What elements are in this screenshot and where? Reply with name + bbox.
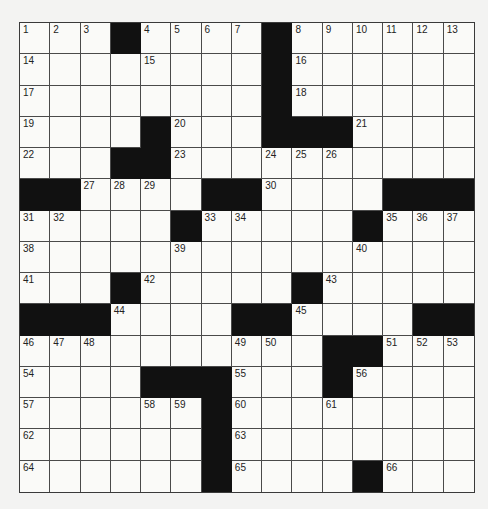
crossword-cell[interactable]: 24 — [262, 148, 292, 179]
crossword-cell[interactable]: 8 — [292, 23, 322, 54]
crossword-cell[interactable] — [383, 429, 413, 460]
crossword-cell[interactable]: 4 — [141, 23, 171, 54]
crossword-cell[interactable] — [323, 211, 353, 242]
crossword-cell[interactable] — [50, 86, 80, 117]
crossword-cell[interactable]: 2 — [50, 23, 80, 54]
crossword-cell[interactable]: 52 — [413, 336, 443, 367]
crossword-cell[interactable] — [353, 148, 383, 179]
crossword-cell[interactable] — [111, 117, 141, 148]
crossword-cell[interactable] — [413, 117, 443, 148]
crossword-cell[interactable]: 31 — [20, 211, 50, 242]
crossword-cell[interactable] — [262, 398, 292, 429]
crossword-cell[interactable]: 36 — [413, 211, 443, 242]
crossword-cell[interactable] — [81, 148, 111, 179]
crossword-cell[interactable] — [292, 398, 322, 429]
crossword-cell[interactable]: 40 — [353, 242, 383, 273]
crossword-cell[interactable]: 62 — [20, 429, 50, 460]
crossword-cell[interactable] — [171, 336, 201, 367]
crossword-cell[interactable]: 12 — [413, 23, 443, 54]
crossword-cell[interactable]: 42 — [141, 273, 171, 304]
crossword-cell[interactable] — [202, 86, 232, 117]
crossword-cell[interactable]: 37 — [444, 211, 474, 242]
crossword-cell[interactable] — [202, 304, 232, 335]
crossword-cell[interactable]: 41 — [20, 273, 50, 304]
crossword-cell[interactable]: 14 — [20, 54, 50, 85]
crossword-cell[interactable] — [292, 461, 322, 492]
crossword-cell[interactable] — [323, 54, 353, 85]
crossword-cell[interactable] — [111, 429, 141, 460]
crossword-cell[interactable]: 34 — [232, 211, 262, 242]
crossword-cell[interactable]: 38 — [20, 242, 50, 273]
crossword-cell[interactable] — [81, 367, 111, 398]
crossword-cell[interactable] — [292, 211, 322, 242]
crossword-cell[interactable] — [50, 54, 80, 85]
crossword-cell[interactable]: 11 — [383, 23, 413, 54]
crossword-cell[interactable] — [81, 117, 111, 148]
crossword-cell[interactable] — [111, 336, 141, 367]
crossword-cell[interactable] — [202, 54, 232, 85]
crossword-cell[interactable]: 43 — [323, 273, 353, 304]
crossword-cell[interactable] — [202, 148, 232, 179]
crossword-cell[interactable]: 18 — [292, 86, 322, 117]
crossword-cell[interactable] — [413, 398, 443, 429]
crossword-cell[interactable] — [141, 429, 171, 460]
crossword-cell[interactable] — [171, 429, 201, 460]
crossword-cell[interactable]: 65 — [232, 461, 262, 492]
crossword-cell[interactable]: 16 — [292, 54, 322, 85]
crossword-cell[interactable] — [413, 273, 443, 304]
crossword-cell[interactable]: 45 — [292, 304, 322, 335]
crossword-cell[interactable] — [81, 86, 111, 117]
crossword-cell[interactable]: 58 — [141, 398, 171, 429]
crossword-cell[interactable] — [353, 54, 383, 85]
crossword-cell[interactable]: 35 — [383, 211, 413, 242]
crossword-cell[interactable]: 59 — [171, 398, 201, 429]
crossword-cell[interactable] — [444, 148, 474, 179]
crossword-cell[interactable] — [111, 398, 141, 429]
crossword-cell[interactable] — [111, 86, 141, 117]
crossword-cell[interactable]: 19 — [20, 117, 50, 148]
crossword-cell[interactable]: 51 — [383, 336, 413, 367]
crossword-cell[interactable]: 13 — [444, 23, 474, 54]
crossword-cell[interactable] — [413, 86, 443, 117]
crossword-cell[interactable] — [50, 273, 80, 304]
crossword-cell[interactable]: 57 — [20, 398, 50, 429]
crossword-cell[interactable]: 21 — [353, 117, 383, 148]
crossword-cell[interactable]: 9 — [323, 23, 353, 54]
crossword-cell[interactable]: 28 — [111, 179, 141, 210]
crossword-cell[interactable] — [444, 461, 474, 492]
crossword-cell[interactable]: 47 — [50, 336, 80, 367]
crossword-cell[interactable] — [383, 367, 413, 398]
crossword-cell[interactable]: 26 — [323, 148, 353, 179]
crossword-cell[interactable] — [81, 273, 111, 304]
crossword-cell[interactable] — [383, 398, 413, 429]
crossword-cell[interactable] — [444, 398, 474, 429]
crossword-cell[interactable] — [111, 242, 141, 273]
crossword-cell[interactable] — [111, 211, 141, 242]
crossword-cell[interactable]: 64 — [20, 461, 50, 492]
crossword-cell[interactable] — [171, 86, 201, 117]
crossword-cell[interactable] — [171, 304, 201, 335]
crossword-cell[interactable] — [232, 54, 262, 85]
crossword-cell[interactable] — [50, 367, 80, 398]
crossword-cell[interactable]: 22 — [20, 148, 50, 179]
crossword-cell[interactable]: 7 — [232, 23, 262, 54]
crossword-cell[interactable]: 56 — [353, 367, 383, 398]
crossword-cell[interactable]: 53 — [444, 336, 474, 367]
crossword-cell[interactable]: 23 — [171, 148, 201, 179]
crossword-cell[interactable] — [202, 273, 232, 304]
crossword-cell[interactable]: 50 — [262, 336, 292, 367]
crossword-cell[interactable] — [50, 242, 80, 273]
crossword-cell[interactable] — [81, 429, 111, 460]
crossword-cell[interactable] — [232, 148, 262, 179]
crossword-cell[interactable] — [413, 54, 443, 85]
crossword-cell[interactable] — [202, 242, 232, 273]
crossword-cell[interactable]: 66 — [383, 461, 413, 492]
crossword-cell[interactable] — [232, 242, 262, 273]
crossword-cell[interactable]: 46 — [20, 336, 50, 367]
crossword-cell[interactable] — [323, 461, 353, 492]
crossword-cell[interactable] — [353, 429, 383, 460]
crossword-cell[interactable] — [383, 273, 413, 304]
crossword-cell[interactable] — [262, 211, 292, 242]
crossword-cell[interactable] — [171, 273, 201, 304]
crossword-cell[interactable] — [444, 429, 474, 460]
